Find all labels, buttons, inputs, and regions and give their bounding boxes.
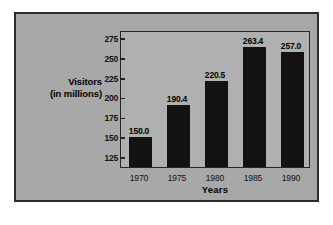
y-axis-tick-mark [120,38,125,40]
bar-value-label: 220.5 [200,70,230,80]
x-axis-tick-label: 1985 [234,173,272,183]
y-axis-tick-mark [120,78,125,80]
y-axis-tick-mark [120,58,125,60]
plot-area [120,31,310,168]
bar-value-label: 150.0 [124,126,154,136]
x-axis-tick-label: 1975 [158,173,196,183]
y-axis-tick-label: 225 [88,75,118,83]
x-axis-title: Years [120,184,310,195]
y-axis-tick-label: 275 [88,35,118,43]
bar [167,105,190,167]
y-axis-tick-labels: 275250225200175150125 [82,14,118,204]
x-axis-tick-label: 1980 [196,173,234,183]
y-axis-tick-label: 200 [88,94,118,102]
x-axis-tick-label: 1990 [272,173,310,183]
y-axis-tick-mark [120,157,125,159]
y-axis-tick-label: 250 [88,55,118,63]
bar [129,137,152,167]
x-axis-tick-label: 1970 [120,173,158,183]
bar [243,47,266,167]
bar [205,81,228,167]
y-axis-tick-mark [120,98,125,100]
y-axis-tick-mark [120,137,125,139]
y-axis-tick-label: 175 [88,114,118,122]
bar-value-label: 263.4 [238,36,268,46]
chart-figure-panel: Visitors (in millions) 27525022520017515… [14,12,319,202]
y-axis-tick-label: 125 [88,154,118,162]
bar-value-label: 257.0 [276,41,306,51]
bar [281,52,304,167]
y-axis-tick-mark [120,118,125,120]
y-axis-tick-label: 150 [88,134,118,142]
bar-value-label: 190.4 [162,94,192,104]
